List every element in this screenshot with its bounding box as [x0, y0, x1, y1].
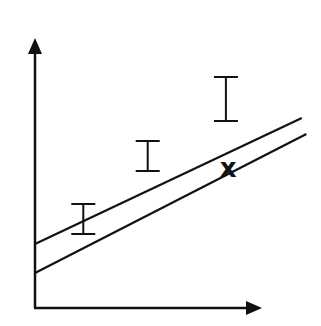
diagram-canvas: x: [0, 0, 321, 326]
outlier-point: x: [220, 153, 237, 183]
y-axis-arrow-icon: [28, 38, 42, 54]
upper-line: [35, 118, 302, 244]
x-axis-arrow-icon: [246, 301, 262, 315]
